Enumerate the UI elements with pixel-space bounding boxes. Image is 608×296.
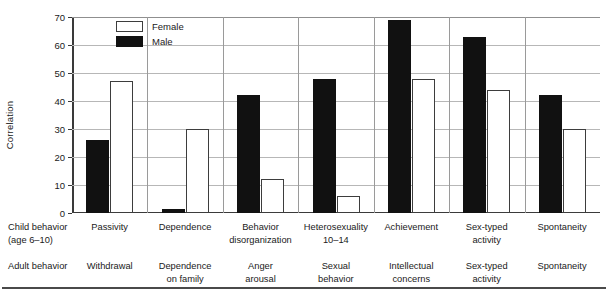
child-behavior-label-4: Heterosexuality10–14	[298, 221, 373, 246]
child-behavior-label-2: Dependence	[147, 221, 222, 246]
y-tick-label-40: 40	[54, 96, 65, 107]
y-tick-40	[68, 101, 72, 102]
bar-female-7	[563, 129, 586, 213]
y-tick-10	[68, 185, 72, 186]
adult-behavior-label-5-line-1: concerns	[376, 273, 447, 286]
child-behavior-label-7: Spontaneity	[524, 221, 599, 246]
group-separator-5	[449, 17, 450, 213]
adult-behavior-label-1-line-0: Withdrawal	[74, 260, 145, 273]
adult-behavior-label-5: Intellectualconcerns	[374, 260, 449, 285]
y-tick-50	[68, 73, 72, 74]
bar-male-5	[388, 20, 411, 213]
row-header-adult-behavior: Adult behavior	[0, 260, 72, 285]
gridline-50	[72, 73, 600, 74]
adult-behavior-label-4: Sexualbehavior	[298, 260, 373, 285]
child-behavior-label-5-line-0: Achievement	[376, 221, 447, 234]
bar-female-4	[337, 196, 360, 213]
legend-label-female: Female	[152, 21, 184, 32]
child-behavior-label-3-line-0: Behavior	[225, 221, 296, 234]
gridline-40	[72, 101, 600, 102]
legend-item-female: Female	[116, 20, 236, 33]
group-separator-3	[298, 17, 299, 213]
adult-behavior-label-3-line-0: Anger	[225, 260, 296, 273]
y-tick-70	[68, 17, 72, 18]
row-header-child-line-1: (age 6–10)	[8, 234, 72, 247]
group-separator-6	[525, 17, 526, 213]
label-row-adult-behavior: Adult behavior WithdrawalDependenceon fa…	[0, 260, 608, 285]
y-tick-30	[68, 129, 72, 130]
category-label-table: Child behavior(age 6–10) PassivityDepend…	[0, 216, 608, 296]
chart-figure: Correlation 010203040506070 Female Male …	[0, 0, 608, 296]
y-tick-0	[68, 213, 72, 214]
bottom-divider	[2, 287, 606, 289]
group-separator-4	[374, 17, 375, 213]
bar-female-1	[110, 81, 133, 213]
bar-male-1	[86, 140, 109, 213]
y-tick-label-70: 70	[54, 12, 65, 23]
adult-behavior-label-3: Angerarousal	[223, 260, 298, 285]
child-behavior-label-4-line-1: 10–14	[300, 234, 371, 247]
row-header-child-line-0: Child behavior	[8, 221, 72, 234]
adult-behavior-label-1: Withdrawal	[72, 260, 147, 285]
child-behavior-label-3: Behaviordisorganization	[223, 221, 298, 246]
bar-male-6	[463, 37, 486, 213]
adult-behavior-label-6-line-0: Sex-typed	[451, 260, 522, 273]
adult-behavior-label-7: Spontaneity	[524, 260, 599, 285]
child-behavior-label-4-line-0: Heterosexuality	[300, 221, 371, 234]
adult-behavior-label-2: Dependenceon family	[147, 260, 222, 285]
adult-behavior-label-7-line-0: Spontaneity	[526, 260, 597, 273]
legend-item-male: Male	[116, 35, 236, 48]
y-tick-20	[68, 157, 72, 158]
child-behavior-label-1-line-0: Passivity	[74, 221, 145, 234]
child-behavior-label-6-line-0: Sex-typed	[451, 221, 522, 234]
adult-behavior-label-2-line-0: Dependence	[149, 260, 220, 273]
chart-legend: Female Male	[116, 20, 236, 50]
row-header-child-behavior: Child behavior(age 6–10)	[0, 221, 72, 246]
child-behavior-label-5: Achievement	[374, 221, 449, 246]
gridline-10	[72, 185, 600, 186]
adult-behavior-label-6-line-1: activity	[451, 273, 522, 286]
gridline-20	[72, 157, 600, 158]
bar-male-4	[313, 79, 336, 213]
y-tick-label-60: 60	[54, 40, 65, 51]
open-square-icon	[116, 21, 143, 32]
adult-behavior-label-3-line-1: arousal	[225, 273, 296, 286]
gridline-30	[72, 129, 600, 130]
adult-behavior-label-4-line-1: behavior	[300, 273, 371, 286]
gridline-70	[72, 17, 600, 18]
bar-female-5	[412, 79, 435, 213]
y-tick-label-10: 10	[54, 180, 65, 191]
label-row-child-behavior: Child behavior(age 6–10) PassivityDepend…	[0, 221, 608, 246]
child-behavior-label-6: Sex-typedactivity	[449, 221, 524, 246]
filled-square-icon	[116, 36, 143, 47]
child-behavior-label-1: Passivity	[72, 221, 147, 246]
y-tick-label-20: 20	[54, 152, 65, 163]
adult-behavior-label-6: Sex-typedactivity	[449, 260, 524, 285]
child-behavior-label-3-line-1: disorganization	[225, 234, 296, 247]
bar-male-2	[162, 209, 185, 213]
bar-female-6	[487, 90, 510, 213]
bar-male-3	[237, 95, 260, 213]
bar-female-3	[261, 179, 284, 213]
y-axis-title: Correlation	[4, 75, 22, 175]
y-tick-label-30: 30	[54, 124, 65, 135]
bar-female-2	[186, 129, 209, 213]
y-tick-label-50: 50	[54, 68, 65, 79]
adult-behavior-label-5-line-0: Intellectual	[376, 260, 447, 273]
child-behavior-label-2-line-0: Dependence	[149, 221, 220, 234]
y-tick-60	[68, 45, 72, 46]
legend-label-male: Male	[152, 36, 173, 47]
row-header-adult-line-0: Adult behavior	[8, 260, 72, 273]
bar-male-7	[539, 95, 562, 213]
child-behavior-label-7-line-0: Spontaneity	[526, 221, 597, 234]
adult-behavior-label-2-line-1: on family	[149, 273, 220, 286]
child-behavior-label-6-line-1: activity	[451, 234, 522, 247]
adult-behavior-label-4-line-0: Sexual	[300, 260, 371, 273]
